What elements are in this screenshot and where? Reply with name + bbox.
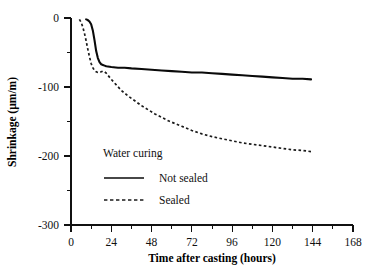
plot-area: 0 -100 -200 -300: [38, 12, 362, 248]
y-axis-title: Shrinkage (µm/m): [6, 77, 19, 167]
y-tick-label-0: 0: [53, 12, 59, 24]
x-axis-minor-ticks: [91, 225, 333, 229]
y-tick-label-minus300: -300: [38, 219, 59, 231]
x-tick-label-24: 24: [106, 236, 118, 248]
series-line-sealed: [79, 19, 312, 151]
legend-label-not-sealed: Not sealed: [159, 172, 208, 184]
chart-canvas: 0 -100 -200 -300: [0, 0, 386, 275]
legend-title: Water curing: [103, 147, 163, 160]
x-tick-label-168: 168: [344, 236, 362, 248]
legend-label-sealed: Sealed: [159, 194, 190, 206]
legend: Water curing Not sealed Sealed: [103, 147, 208, 206]
series-line-not-sealed: [86, 19, 311, 79]
x-tick-label-120: 120: [264, 236, 282, 248]
x-tick-label-96: 96: [226, 236, 238, 248]
x-tick-label-0: 0: [68, 236, 74, 248]
x-tick-label-72: 72: [186, 236, 198, 248]
shrinkage-chart-figure: 0 -100 -200 -300: [0, 0, 386, 275]
x-tick-label-144: 144: [304, 236, 322, 248]
x-tick-label-48: 48: [146, 236, 158, 248]
x-axis-title: Time after casting (hours): [148, 252, 276, 265]
x-axis-tick-labels: 0 24 48 72 96 120 144 168: [68, 236, 362, 248]
y-tick-label-minus200: -200: [38, 150, 59, 162]
y-tick-label-minus100: -100: [38, 81, 59, 93]
y-axis-tick-labels: 0 -100 -200 -300: [38, 12, 59, 231]
y-axis-minor-ticks: [67, 53, 71, 191]
